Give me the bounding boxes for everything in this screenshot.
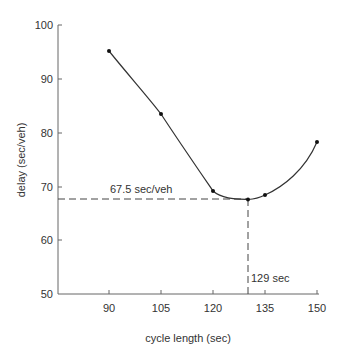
y-tick-label: 60 xyxy=(41,234,53,246)
data-point xyxy=(159,112,163,116)
data-point xyxy=(211,189,215,193)
y-tick-label: 100 xyxy=(35,19,53,31)
x-tick-label: 135 xyxy=(256,302,274,314)
min-delay-annotation: 67.5 sec/veh xyxy=(110,183,172,195)
data-point xyxy=(107,49,111,53)
x-tick-label: 150 xyxy=(308,302,326,314)
y-axis-label: delay (sec/veh) xyxy=(15,123,27,198)
y-tick-label: 70 xyxy=(41,181,53,193)
axes xyxy=(58,25,319,294)
data-point xyxy=(315,140,319,144)
x-tick-label: 120 xyxy=(204,302,222,314)
data-point xyxy=(246,198,250,202)
y-tick-label: 50 xyxy=(41,288,53,300)
optimal-cycle-annotation: 129 sec xyxy=(251,272,290,284)
x-tick-label: 90 xyxy=(103,302,115,314)
x-tick-label: 105 xyxy=(152,302,170,314)
delay-vs-cycle-length-chart: 100 90 80 70 60 50 90 105 120 135 150 cy… xyxy=(0,0,341,353)
data-point xyxy=(263,193,267,197)
y-tick-label: 80 xyxy=(41,127,53,139)
x-axis-label: cycle length (sec) xyxy=(145,332,231,344)
delay-curve xyxy=(109,51,317,200)
data-points xyxy=(107,49,319,202)
y-tick-label: 90 xyxy=(41,73,53,85)
